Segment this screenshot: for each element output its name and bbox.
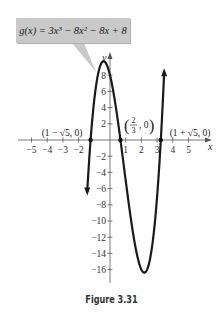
curve-arrow-up-icon [161,68,167,76]
x-tick-label: 1 [123,145,128,155]
x-tick-label: 4 [170,145,175,155]
callout-pointer [72,43,96,72]
y-tick-label: −6 [96,184,106,194]
y-tick-label: −10 [91,216,106,226]
graph-plot: xy−5−4−3−2123458642−2−4−6−8−10−12−14−16(… [0,0,223,317]
x-tick-label: 2 [139,145,144,155]
curve-arrow-down-icon [84,188,90,196]
y-tick-label: 4 [101,103,106,113]
function-label: g(x) = 3x³ − 8x² − 8x + 8 [19,25,127,36]
zero-label-right: (1 + √5, 0) [170,128,211,139]
zero-point-marker [88,138,92,142]
x-tick-label: 5 [186,145,191,155]
y-tick-label: −12 [91,233,106,243]
zero-label-middle-open-paren: ( [124,117,129,135]
function-label-callout: g(x) = 3x³ − 8x² − 8x + 8 [16,18,130,43]
zero-label-left: (1 − √5, 0) [42,128,83,139]
zero-point-marker [159,138,163,142]
y-tick-label: −14 [91,249,106,259]
y-tick-label: 8 [101,71,106,81]
x-tick-label: −3 [58,145,68,155]
zero-label-middle-numerator: 2 [132,116,136,125]
x-tick-label: −2 [74,145,84,155]
y-tick-label: −8 [96,200,106,210]
zero-label-middle-close-paren: ) [149,117,154,135]
x-tick-label: −5 [26,145,36,155]
zero-point-marker [118,138,122,142]
y-tick-label: −16 [91,265,106,275]
y-tick-label: −2 [96,152,106,162]
y-tick-label: 2 [101,119,106,129]
x-axis-label: x [207,141,213,152]
y-axis-arrow-icon [108,52,113,59]
zero-label-middle-rest: , 0 [139,120,149,130]
x-tick-label: −4 [42,145,52,155]
figure-caption: Figure 3.31 [20,293,203,306]
y-tick-label: 6 [101,87,106,97]
y-tick-label: −4 [96,168,106,178]
zero-label-middle-denominator: 3 [132,126,136,135]
